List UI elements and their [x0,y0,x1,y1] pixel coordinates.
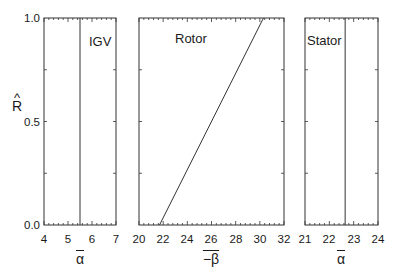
rotor-xtick: 20 [133,233,146,245]
igv-xtick: 4 [41,233,47,245]
y-axis-label: R [12,100,22,112]
rotor-xtick: 24 [181,233,194,245]
igv-xtick: 5 [65,233,71,245]
stator-xtick: 24 [372,233,385,245]
rotor-xtick: 28 [230,233,243,245]
ytick-1: 1.0 [4,12,40,24]
rotor-title: Rotor [175,32,207,45]
stator-xtick: 22 [323,233,336,245]
rotor-xtick: 22 [157,233,170,245]
rotor-xtick: 30 [254,233,267,245]
igv-xtick: 7 [113,233,119,245]
stator-xtick: 21 [299,233,312,245]
igv-x-axis-label: α [76,252,84,266]
rotor-xtick: 26 [205,233,218,245]
stator-panel-frame [305,18,378,225]
rotor-xtick: 32 [278,233,291,245]
rotor-x-axis-label: −β [203,252,219,266]
ytick-0: 0.0 [4,219,40,231]
stator-xtick: 23 [348,233,361,245]
rotor-data-line [160,18,264,225]
stator-x-axis-label: α [337,252,345,266]
rotor-x-axis-text: −β [203,251,219,267]
igv-title: IGV [89,35,111,48]
igv-xtick: 6 [89,233,95,245]
stator-title: Stator [307,34,342,47]
ytick-0-5: 0.5 [4,116,40,128]
